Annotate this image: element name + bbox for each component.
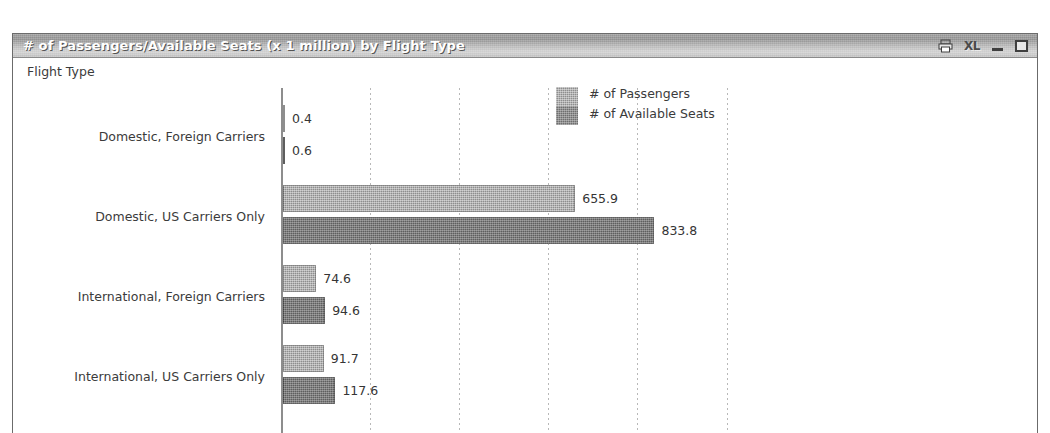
legend-swatch-available-seats: [556, 106, 578, 125]
bar-row: 833.8: [283, 217, 697, 244]
print-button[interactable]: [938, 37, 953, 54]
category-label: Domestic, US Carriers Only: [95, 209, 265, 224]
chart-legend: # of Passengers # of Available Seats: [556, 85, 715, 125]
legend-swatches: [556, 87, 578, 125]
bar-row: 94.6: [283, 297, 360, 324]
bar-value-label: 655.9: [582, 191, 618, 206]
category-label: Domestic, Foreign Carriers: [99, 129, 265, 144]
bar-value-label: 0.6: [292, 143, 312, 158]
window-title: # of Passengers/Available Seats (x 1 mil…: [23, 38, 465, 53]
bar-value-label: 91.7: [331, 351, 359, 366]
bar-value-label: 117.6: [342, 383, 378, 398]
legend-label-passengers: # of Passengers: [589, 85, 715, 103]
bar[interactable]: [283, 345, 324, 372]
bar-value-label: 74.6: [323, 271, 351, 286]
bar-group: Domestic, US Carriers Only655.9833.8: [281, 176, 1029, 256]
maximize-icon: [1015, 40, 1028, 52]
bar-group: International, US Carriers Only91.7117.6: [281, 336, 1029, 416]
plot-area: Domestic, Foreign Carriers0.40.6Domestic…: [281, 88, 1029, 433]
bar-value-label: 0.4: [292, 111, 312, 126]
bar[interactable]: [283, 217, 654, 244]
bar[interactable]: [283, 137, 285, 164]
minimize-button[interactable]: [991, 37, 1004, 54]
window-controls: XL: [938, 37, 1028, 54]
chart-window: # of Passengers/Available Seats (x 1 mil…: [12, 33, 1038, 433]
bar[interactable]: [283, 105, 285, 132]
category-label: International, Foreign Carriers: [78, 289, 265, 304]
printer-icon: [938, 39, 953, 53]
y-axis-title: Flight Type: [27, 64, 95, 79]
bar[interactable]: [283, 185, 575, 212]
maximize-button[interactable]: [1015, 37, 1028, 54]
export-excel-button[interactable]: XL: [964, 37, 980, 54]
window-titlebar[interactable]: # of Passengers/Available Seats (x 1 mil…: [13, 34, 1037, 58]
bar-row: 91.7: [283, 345, 359, 372]
legend-label-available-seats: # of Available Seats: [589, 105, 715, 123]
bar-row: 0.6: [283, 137, 312, 164]
legend-swatch-passengers: [556, 87, 578, 106]
bar-row: 0.4: [283, 105, 312, 132]
bar-group: International, Foreign Carriers74.694.6: [281, 256, 1029, 336]
bar[interactable]: [283, 297, 325, 324]
screenshot-root: # of Passengers/Available Seats (x 1 mil…: [0, 0, 1050, 433]
legend-labels: # of Passengers # of Available Seats: [589, 85, 715, 123]
chart-canvas: Flight Type Domestic, Foreign Carriers0.…: [13, 58, 1037, 433]
bar-value-label: 833.8: [661, 223, 697, 238]
bar[interactable]: [283, 377, 335, 404]
minimize-icon: [991, 40, 1004, 52]
category-label: International, US Carriers Only: [74, 369, 265, 384]
bar-row: 117.6: [283, 377, 378, 404]
bar-value-label: 94.6: [332, 303, 360, 318]
bar-groups: Domestic, Foreign Carriers0.40.6Domestic…: [281, 88, 1029, 433]
bar-row: 655.9: [283, 185, 618, 212]
bar[interactable]: [283, 265, 316, 292]
bar-row: 74.6: [283, 265, 351, 292]
